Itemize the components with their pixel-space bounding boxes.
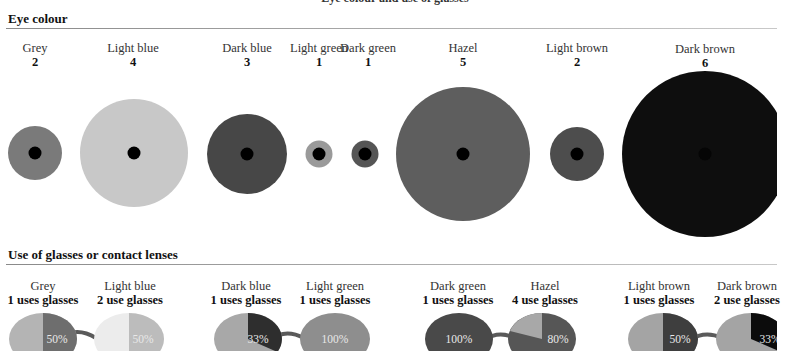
- pie-dark-brown-pct: 33%: [759, 333, 777, 345]
- eye-light-brown: [550, 127, 604, 181]
- pie-light-brown-pct: 50%: [669, 333, 691, 345]
- glasses-label-dark-brown: Dark brown 2 use glasses: [682, 279, 785, 307]
- glasses-label-light-green: Light green 1 uses glasses: [270, 279, 400, 307]
- pie-dark-green-pct: 100%: [446, 333, 473, 345]
- spectacles-dark-green-hazel: 100% 80%: [425, 313, 576, 351]
- pie-hazel-pct: 80%: [547, 333, 569, 345]
- eye-dark-blue: [207, 114, 287, 194]
- section-divider: [6, 264, 777, 265]
- spectacles-light-brown-dark-brown: 50% 33%: [628, 313, 777, 351]
- eye-dark-brown: [622, 71, 777, 237]
- eye-grey: [8, 126, 62, 180]
- section-title-glasses: Use of glasses or contact lenses: [8, 247, 178, 263]
- glasses-label-light-blue: Light blue 2 use glasses: [65, 279, 195, 307]
- pie-dark-green: [425, 313, 493, 351]
- pie-light-brown-slice: [663, 313, 698, 351]
- eye-hazel: [396, 87, 530, 221]
- eye-light-blue: [80, 99, 188, 207]
- pie-dark-blue-pct: 33%: [247, 333, 269, 345]
- pie-grey-pct: 50%: [46, 333, 68, 345]
- glasses-label-hazel: Hazel 4 use glasses: [480, 279, 610, 307]
- pie-light-blue-pct: 50%: [132, 333, 154, 345]
- pie-light-green-pct: 100%: [322, 333, 349, 345]
- eye-dark-green: [352, 141, 379, 168]
- pie-light-blue-slice: [129, 313, 164, 351]
- spectacles-grey-light-blue: 50% 50%: [9, 313, 164, 351]
- pie-light-green: [300, 313, 370, 351]
- pie-grey-slice: [43, 313, 77, 351]
- eye-light-green: [306, 141, 333, 168]
- spectacles-dark-blue-light-green: 33% 100%: [214, 313, 370, 351]
